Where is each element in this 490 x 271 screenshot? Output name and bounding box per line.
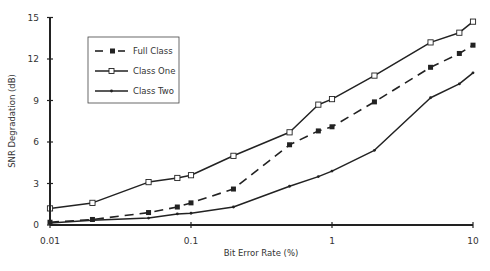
legend-label: Full Class — [133, 46, 173, 56]
x-tick-label: 1 — [329, 236, 335, 246]
dot-marker — [232, 206, 235, 209]
open-square-icon — [109, 69, 114, 74]
dot-marker — [317, 175, 320, 178]
filled-square-marker — [287, 142, 292, 147]
open-square-marker — [175, 175, 180, 180]
open-square-marker — [329, 97, 334, 102]
open-square-marker — [470, 19, 475, 24]
legend-label: Class Two — [133, 86, 174, 96]
y-tick-label: 12 — [28, 54, 39, 64]
y-tick-label: 0 — [33, 220, 39, 230]
open-square-marker — [316, 102, 321, 107]
dot-marker — [373, 149, 376, 152]
filled-square-marker — [146, 210, 151, 215]
dot-marker — [458, 83, 461, 86]
y-tick-label: 9 — [33, 96, 39, 106]
filled-square-marker — [231, 187, 236, 192]
open-square-marker — [90, 200, 95, 205]
x-tick-label: 10 — [467, 236, 479, 246]
filled-square-marker — [428, 65, 433, 70]
dot-marker — [176, 213, 179, 216]
open-square-marker — [287, 130, 292, 135]
open-square-marker — [457, 30, 462, 35]
dot-marker-icon — [110, 90, 113, 93]
dot-marker — [190, 212, 193, 215]
filled-square-marker — [316, 128, 321, 133]
filled-square-marker — [457, 51, 462, 56]
dot-marker — [288, 185, 291, 188]
y-tick-label: 3 — [33, 179, 39, 189]
dot-marker — [331, 170, 334, 173]
dot-marker — [91, 219, 94, 222]
x-tick-label: 0.1 — [184, 236, 198, 246]
open-square-marker — [146, 180, 151, 185]
filled-square-icon — [110, 49, 115, 54]
y-tick-label: 6 — [33, 137, 39, 147]
y-tick-label: 15 — [28, 13, 39, 23]
open-square-marker — [188, 173, 193, 178]
filled-square-marker — [175, 205, 180, 210]
filled-square-marker — [330, 124, 335, 129]
open-square-marker — [372, 73, 377, 78]
snr-degradation-chart: 03691215 0.010.1110 Bit Error Rate (%) S… — [0, 0, 490, 271]
x-axis-title: Bit Error Rate (%) — [224, 248, 299, 258]
legend: Full Class Class One Class Two — [88, 37, 179, 103]
dot-marker — [147, 217, 150, 220]
open-square-marker — [231, 153, 236, 158]
filled-square-marker — [372, 99, 377, 104]
legend-label: Class One — [133, 66, 175, 76]
y-axis-title: SNR Degradation (dB) — [7, 74, 17, 168]
open-square-marker — [428, 40, 433, 45]
x-tick-label: 0.01 — [40, 236, 60, 246]
filled-square-marker — [189, 200, 194, 205]
dot-marker — [429, 96, 432, 99]
filled-square-marker — [471, 43, 476, 48]
dot-marker — [472, 71, 475, 74]
